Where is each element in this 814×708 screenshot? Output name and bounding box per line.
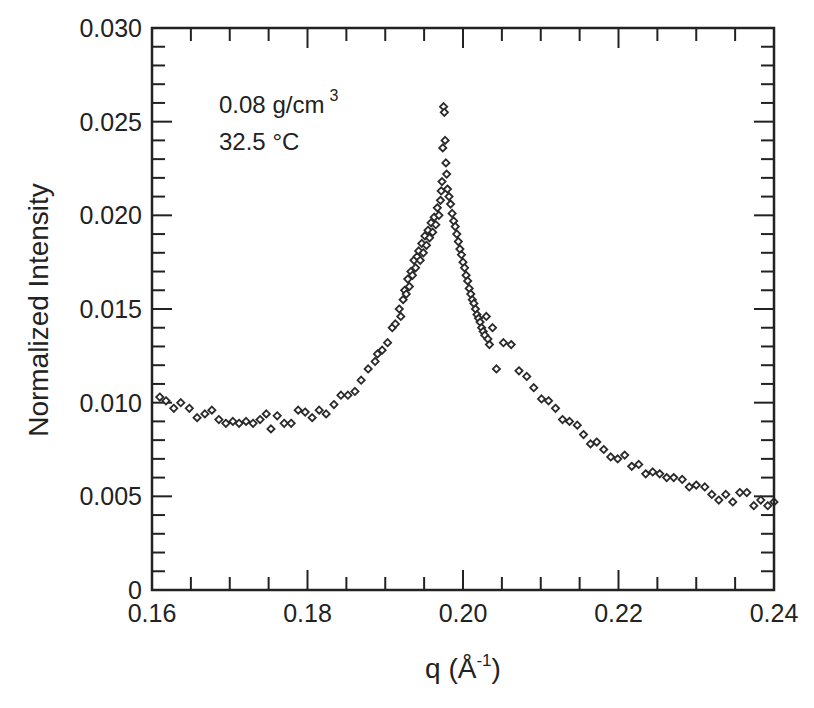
- data-point-diamond: [545, 397, 552, 404]
- data-point-diamond: [729, 498, 736, 505]
- data-point-diamond: [215, 416, 222, 423]
- y-axis-title: Normalized Intensity: [23, 183, 54, 437]
- data-point-diamond: [201, 410, 208, 417]
- data-point-diamond: [642, 470, 649, 477]
- density-annotation-text: 0.08 g/cm: [219, 91, 324, 118]
- data-point-diamond: [208, 407, 215, 414]
- data-point-diamond: [156, 393, 163, 400]
- data-point-diamond: [449, 210, 456, 217]
- x-axis-title-exponent: -1: [476, 651, 491, 670]
- x-axis-title-q: q (Å: [425, 653, 477, 684]
- data-point-diamond: [309, 414, 316, 421]
- data-point-diamond: [351, 388, 358, 395]
- chart-annotations: 0.08 g/cm3 32.5 °C: [219, 87, 338, 155]
- data-point-diamond: [442, 159, 449, 166]
- data-point-diamond: [267, 425, 274, 432]
- data-point-diamond: [708, 491, 715, 498]
- data-point-diamond: [443, 171, 450, 178]
- data-point-diamond: [437, 197, 444, 204]
- data-point-diamond: [447, 200, 454, 207]
- data-point-diamond: [693, 481, 700, 488]
- data-point-diamond: [538, 395, 545, 402]
- y-tick-label: 0.020: [79, 201, 142, 229]
- data-point-diamond: [559, 416, 566, 423]
- data-point-diamond: [222, 420, 229, 427]
- data-point-diamond: [438, 178, 445, 185]
- data-point-diamond: [263, 410, 270, 417]
- density-annotation-sup: 3: [329, 87, 338, 104]
- data-point-diamond: [453, 230, 460, 237]
- data-point-diamond: [256, 416, 263, 423]
- data-point-diamond: [489, 324, 496, 331]
- data-point-diamond: [397, 313, 404, 320]
- x-tick-label: 0.18: [283, 599, 332, 627]
- data-point-diamond: [552, 405, 559, 412]
- data-point-diamond: [722, 491, 729, 498]
- density-annotation: 0.08 g/cm3: [219, 87, 338, 118]
- y-tick-label: 0.010: [79, 389, 142, 417]
- data-point-diamond: [621, 452, 628, 459]
- x-tick-label: 0.20: [439, 599, 488, 627]
- data-point-diamond: [757, 496, 764, 503]
- data-point-diamond: [288, 420, 295, 427]
- data-point-diamond: [242, 418, 249, 425]
- data-point-diamond: [330, 401, 337, 408]
- data-point-diamond: [649, 468, 656, 475]
- data-point-diamond: [635, 461, 642, 468]
- data-point-diamond: [358, 377, 365, 384]
- data-point-diamond: [656, 470, 663, 477]
- data-point-diamond: [249, 420, 256, 427]
- data-point-diamond: [574, 422, 581, 429]
- x-tick-label: 0.24: [750, 599, 799, 627]
- data-point-diamond: [442, 137, 449, 144]
- data-point-diamond: [170, 405, 177, 412]
- data-point-diamond: [515, 367, 522, 374]
- data-point-diamond: [186, 405, 193, 412]
- data-point-diamond: [500, 339, 507, 346]
- data-point-diamond: [316, 407, 323, 414]
- data-point-diamond: [715, 496, 722, 503]
- data-point-diamond: [434, 204, 441, 211]
- data-point-diamond: [365, 365, 372, 372]
- axis-tick-labels: 0.160.180.200.220.2400.0050.0100.0150.02…: [79, 14, 798, 627]
- data-point-diamond: [493, 365, 500, 372]
- y-tick-label: 0: [128, 576, 142, 604]
- data-point-diamond: [670, 474, 677, 481]
- y-tick-label: 0.030: [79, 14, 142, 42]
- data-point-diamond: [439, 144, 446, 151]
- data-point-diamond: [614, 455, 621, 462]
- data-point-diamond: [530, 384, 537, 391]
- y-tick-label: 0.015: [79, 295, 142, 323]
- data-point-diamond: [580, 431, 587, 438]
- data-point-diamond: [384, 339, 391, 346]
- scatter-chart: Normalized Intensity q (Å-1) 0.160.180.2…: [0, 0, 814, 708]
- data-point-diamond: [508, 341, 515, 348]
- data-point-diamond: [607, 453, 614, 460]
- data-points: [156, 103, 777, 509]
- data-point-diamond: [750, 502, 757, 509]
- data-point-diamond: [323, 410, 330, 417]
- data-point-diamond: [686, 483, 693, 490]
- x-tick-label: 0.22: [594, 599, 643, 627]
- data-point-diamond: [445, 193, 452, 200]
- data-point-diamond: [523, 373, 530, 380]
- x-axis-title-close: ): [492, 653, 501, 684]
- y-axis-title-group: Normalized Intensity: [23, 183, 54, 437]
- data-point-diamond: [396, 305, 403, 312]
- data-point-diamond: [344, 392, 351, 399]
- data-point-diamond: [455, 238, 462, 245]
- y-tick-label: 0.005: [79, 482, 142, 510]
- y-tick-label: 0.025: [79, 108, 142, 136]
- x-axis-title: q (Å-1): [425, 651, 501, 684]
- data-point-diamond: [372, 358, 379, 365]
- data-point-diamond: [193, 414, 200, 421]
- data-point-diamond: [679, 476, 686, 483]
- temperature-annotation: 32.5 °C: [219, 128, 299, 155]
- data-point-diamond: [764, 502, 771, 509]
- data-point-diamond: [483, 313, 490, 320]
- data-point-diamond: [295, 407, 302, 414]
- data-point-diamond: [701, 483, 708, 490]
- data-point-diamond: [566, 418, 573, 425]
- data-point-diamond: [743, 489, 750, 496]
- data-point-diamond: [302, 408, 309, 415]
